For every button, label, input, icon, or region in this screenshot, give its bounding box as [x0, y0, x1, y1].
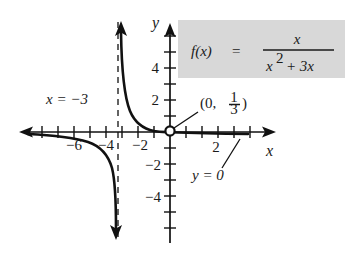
formula-lhs: f(x): [191, 43, 212, 60]
x-axis-label: x: [265, 142, 273, 159]
horizontal-asymptote-label: y = 0: [190, 167, 224, 183]
curve-upper-tail: [170, 132, 248, 134]
function-graph-figure: f(x) = x x 2 + 3x: [0, 0, 345, 254]
horizontal-asymptote-leader-line: [222, 139, 240, 168]
hole-point-label-close: ): [242, 95, 247, 112]
y-axis-label: y: [150, 14, 160, 32]
x-tick-label-2: 2: [212, 139, 220, 155]
y-tick-label-minus2: −2: [145, 157, 161, 173]
curve-upper-path: [121, 32, 170, 132]
formula-numerator: x: [293, 31, 301, 47]
formula-callout: f(x) = x x 2 + 3x: [178, 20, 345, 78]
hole-point-fraction-denominator: 3: [230, 101, 238, 117]
x-tick-label-minus2: −2: [132, 137, 148, 153]
hole-point-annotation: (0, 1 3 ): [174, 89, 247, 128]
vertical-asymptote-label: x = −3: [45, 91, 88, 107]
formula-equals: =: [232, 43, 240, 59]
open-circle-hole: [165, 126, 174, 135]
y-tick-label-2: 2: [152, 92, 160, 108]
y-tick-label-minus4: −4: [145, 189, 161, 205]
formula-denominator-exponent: 2: [276, 50, 284, 66]
formula-denominator-rest: + 3x: [286, 58, 314, 74]
y-tick-label-4: 4: [152, 60, 160, 76]
hole-point-leader-line: [174, 112, 198, 128]
formula-denominator-base: x: [265, 58, 273, 74]
hole-point-label-open: (0,: [200, 95, 216, 112]
